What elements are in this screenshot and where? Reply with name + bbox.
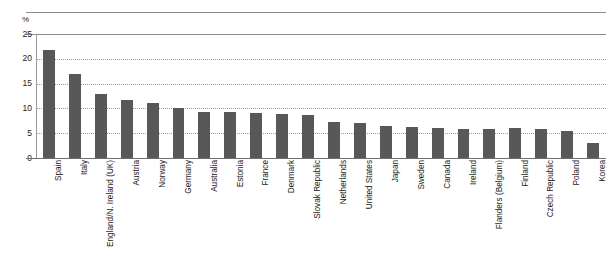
bar-slot: [69, 34, 81, 158]
x-axis-label: Canada: [441, 160, 449, 189]
bar-series: [36, 34, 606, 158]
plot-area: [36, 34, 606, 158]
bar: [302, 115, 314, 158]
bar: [587, 143, 599, 158]
bar-chart: % 0510152025 SpainItalyEngland/N. Irelan…: [0, 0, 612, 266]
bar-slot: [535, 34, 547, 158]
bar: [173, 108, 185, 158]
bar: [328, 122, 340, 158]
bar-slot: [458, 34, 470, 158]
bar-slot: [380, 34, 392, 158]
bar-slot: [173, 34, 185, 158]
bar: [69, 74, 81, 158]
x-axis-label: Denmark: [285, 160, 293, 193]
bar: [354, 123, 366, 158]
x-axis-label: Netherlands: [337, 160, 345, 204]
bar-slot: [224, 34, 236, 158]
bar: [406, 127, 418, 158]
x-axis-baseline: [26, 158, 606, 159]
x-axis-label: Flanders (Belgium): [493, 160, 501, 229]
x-axis-label: Ireland: [467, 160, 475, 185]
bar: [458, 129, 470, 158]
bar-slot: [328, 34, 340, 158]
x-axis-label: Slovak Republic: [311, 160, 319, 219]
x-axis-label: Czech Republic: [544, 160, 552, 217]
bar: [483, 129, 495, 158]
x-axis-label: Korea: [596, 160, 604, 182]
bar-slot: [95, 34, 107, 158]
bar: [121, 100, 133, 158]
bar-slot: [147, 34, 159, 158]
bar: [561, 131, 573, 158]
bar: [95, 94, 107, 158]
x-axis-label: United States: [363, 160, 371, 209]
bar: [224, 112, 236, 158]
x-axis-label: Estonia: [234, 160, 242, 187]
x-axis-label: Sweden: [415, 160, 423, 190]
bar-slot: [121, 34, 133, 158]
y-axis-unit-label: %: [22, 16, 29, 24]
x-axis-label: Japan: [389, 160, 397, 182]
x-axis-label: Austria: [130, 160, 138, 185]
bar: [147, 103, 159, 158]
bar-slot: [561, 34, 573, 158]
bar-slot: [43, 34, 55, 158]
bar-slot: [302, 34, 314, 158]
x-axis-label: England/N. Ireland (UK): [104, 160, 112, 247]
bar-slot: [354, 34, 366, 158]
bar-slot: [276, 34, 288, 158]
bar-slot: [432, 34, 444, 158]
x-axis-label: Germany: [182, 160, 190, 194]
y-tick-label-20: 20: [16, 54, 32, 63]
x-axis-label: Spain: [52, 160, 60, 181]
bar: [432, 128, 444, 158]
x-axis-label: Italy: [78, 160, 86, 175]
x-axis-label: Australia: [208, 160, 216, 192]
x-axis-category-labels: SpainItalyEngland/N. Ireland (UK)Austria…: [36, 160, 606, 264]
bar: [43, 50, 55, 158]
bar: [276, 114, 288, 158]
bar: [509, 128, 521, 158]
bar: [198, 112, 210, 158]
bar-slot: [250, 34, 262, 158]
bar: [380, 126, 392, 158]
x-axis-label: France: [259, 160, 267, 185]
bar: [535, 129, 547, 158]
top-rule: [26, 12, 606, 13]
bar-slot: [198, 34, 210, 158]
bar-slot: [406, 34, 418, 158]
y-tick-label-10: 10: [16, 104, 32, 113]
bar: [250, 113, 262, 158]
bar-slot: [483, 34, 495, 158]
x-axis-label: Poland: [570, 160, 578, 186]
y-tick-label-15: 15: [16, 79, 32, 88]
bar-slot: [587, 34, 599, 158]
x-axis-label: Finland: [519, 160, 527, 187]
y-tick-label-5: 5: [16, 129, 32, 138]
bar-slot: [509, 34, 521, 158]
x-axis-label: Norway: [156, 160, 164, 188]
